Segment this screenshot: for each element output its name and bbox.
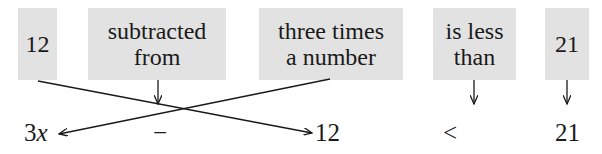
expr-3x: 3x — [24, 118, 48, 148]
arrow-12-to-12 — [38, 81, 312, 133]
arrow-three-times-to-3x — [59, 79, 330, 134]
variable: x — [37, 119, 48, 146]
expr-21: 21 — [555, 118, 580, 148]
expr-minus: − — [153, 118, 167, 148]
coefficient: 3 — [24, 119, 37, 146]
translation-arrows — [0, 0, 602, 154]
expr-12: 12 — [315, 118, 340, 148]
expr-less-than: < — [443, 118, 457, 148]
